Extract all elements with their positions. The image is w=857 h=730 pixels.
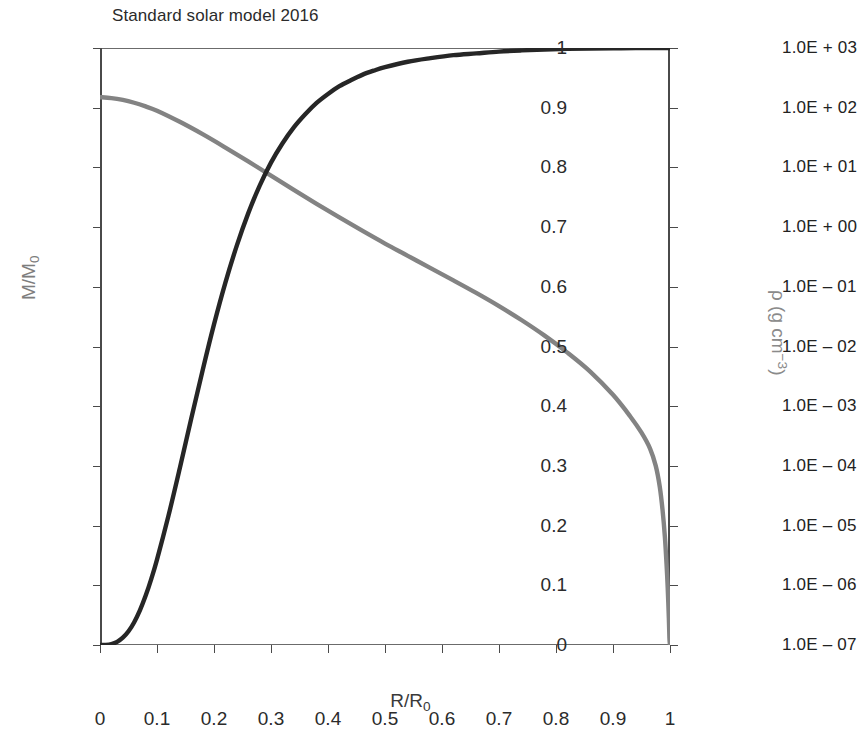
y-axis-left-tick xyxy=(93,227,100,228)
y-axis-right-tick-label: 1.0E – 04 xyxy=(782,456,857,476)
y-axis-right-tick xyxy=(670,466,678,467)
y-axis-left-tick-label: 0.4 xyxy=(541,395,567,417)
y-axis-right-tick xyxy=(670,167,678,168)
y-axis-right-tick-label: 1.0E + 03 xyxy=(782,38,857,58)
y-axis-right-tick xyxy=(670,227,678,228)
page-title: Standard solar model 2016 xyxy=(112,6,319,26)
x-axis-tick xyxy=(214,645,215,653)
y-axis-left-title: M/M0 xyxy=(18,255,42,300)
y-axis-right-tick-label: 1.0E + 01 xyxy=(782,157,857,177)
y-axis-left-tick xyxy=(93,406,100,407)
y-axis-left-tick-label: 0 xyxy=(556,634,567,656)
plot-area: 00.10.20.30.40.50.60.70.80.91 1.0E + 031… xyxy=(100,48,670,645)
y-axis-left-tick-label: 0.6 xyxy=(541,276,567,298)
y-axis-left-tick-label: 0.1 xyxy=(541,574,567,596)
y-axis-right-tick xyxy=(670,645,678,646)
y-axis-left-tick xyxy=(93,347,100,348)
y-axis-left-tick-label: 0.9 xyxy=(541,97,567,119)
y-axis-right-title: ρ (g cm−3) xyxy=(767,290,790,376)
x-axis-tick xyxy=(613,645,614,653)
y-axis-left-tick-label: 1 xyxy=(556,37,567,59)
y-axis-right-tick xyxy=(670,347,678,348)
x-axis-title: R/R0 xyxy=(0,690,821,714)
y-axis-left-tick-label: 0.2 xyxy=(541,515,567,537)
y-axis-left-tick xyxy=(93,526,100,527)
x-axis-tick xyxy=(328,645,329,653)
x-axis-tick xyxy=(100,645,101,653)
y-axis-right-tick-label: 1.0E – 01 xyxy=(782,277,857,297)
x-axis-tick xyxy=(157,645,158,653)
y-axis-right-tick-label: 1.0E – 02 xyxy=(782,337,857,357)
y-axis-left-tick xyxy=(93,645,100,646)
x-axis-tick xyxy=(670,645,671,653)
x-axis-tick xyxy=(499,645,500,653)
y-axis-right-tick-label: 1.0E + 00 xyxy=(782,217,857,237)
y-axis-right-tick-label: 1.0E – 05 xyxy=(782,516,857,536)
y-axis-right-tick-label: 1.0E – 06 xyxy=(782,575,857,595)
y-axis-left-tick-label: 0.3 xyxy=(541,455,567,477)
y-axis-left-tick xyxy=(93,48,100,49)
y-axis-right-tick-label: 1.0E + 02 xyxy=(782,98,857,118)
x-axis-tick xyxy=(385,645,386,653)
y-axis-right-tick xyxy=(670,287,678,288)
y-axis-left-tick xyxy=(93,287,100,288)
y-axis-right-tick-label: 1.0E – 07 xyxy=(782,635,857,655)
mass-fraction-curve xyxy=(100,48,670,645)
y-axis-left-tick xyxy=(93,167,100,168)
y-axis-right-tick xyxy=(670,526,678,527)
x-axis-tick xyxy=(442,645,443,653)
y-axis-left-tick-label: 0.7 xyxy=(541,216,567,238)
density-curve xyxy=(100,97,670,645)
y-axis-left-tick xyxy=(93,585,100,586)
y-axis-right-tick xyxy=(670,48,678,49)
x-axis-tick xyxy=(271,645,272,653)
y-axis-left-tick-label: 0.8 xyxy=(541,156,567,178)
y-axis-left-tick-label: 0.5 xyxy=(541,336,567,358)
y-axis-left-tick xyxy=(93,108,100,109)
y-axis-right-tick xyxy=(670,108,678,109)
y-axis-right-tick-label: 1.0E – 03 xyxy=(782,396,857,416)
y-axis-left-tick xyxy=(93,466,100,467)
curves-layer xyxy=(100,48,670,645)
y-axis-right-tick xyxy=(670,585,678,586)
y-axis-right-tick xyxy=(670,406,678,407)
x-axis-tick xyxy=(556,645,557,653)
